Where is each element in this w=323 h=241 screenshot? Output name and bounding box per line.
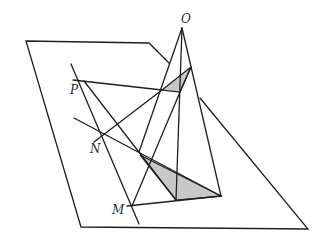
line-P-to-lower <box>84 81 176 200</box>
line-through-P-M <box>71 64 139 224</box>
label-O: O <box>181 12 191 26</box>
plane-outline-top <box>26 41 308 229</box>
label-M: M <box>111 203 125 217</box>
edge-O-right <box>182 28 221 196</box>
label-N: N <box>89 142 101 156</box>
upper-section-triangle <box>162 67 191 92</box>
lower-section-triangle <box>140 155 221 200</box>
line-N-lower <box>74 118 221 196</box>
label-P: P <box>69 83 79 97</box>
geometry-diagram: O P N M <box>0 0 323 241</box>
